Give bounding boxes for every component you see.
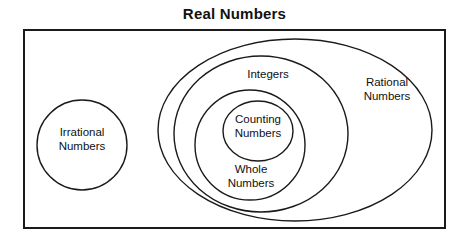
integers-ellipse — [174, 56, 348, 212]
venn-diagram-canvas — [0, 0, 469, 244]
counting-numbers-circle — [223, 101, 293, 161]
rational-numbers-ellipse — [158, 39, 432, 221]
irrational-numbers-circle — [37, 100, 127, 190]
number-sets-venn-diagram: Real Numbers Irrational Numbers Rational… — [0, 0, 469, 244]
